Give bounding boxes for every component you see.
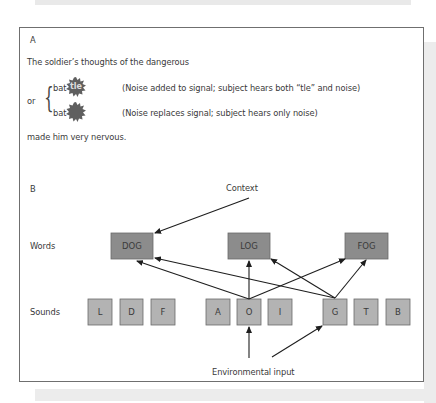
- sound-label: O: [237, 307, 261, 317]
- sound-label: T: [354, 307, 378, 317]
- sound-label: B: [386, 307, 410, 317]
- word-label: FOG: [345, 241, 388, 251]
- word-label: DOG: [111, 241, 153, 251]
- connection-arrows: [137, 198, 366, 358]
- word-recognition-diagram: [0, 0, 436, 403]
- sound-label: A: [206, 307, 230, 317]
- sound-label: D: [120, 307, 143, 317]
- sound-label: G: [323, 307, 347, 317]
- sound-label: L: [88, 307, 112, 317]
- word-label: LOG: [228, 241, 270, 251]
- sound-label: I: [268, 307, 292, 317]
- sound-label: F: [151, 307, 175, 317]
